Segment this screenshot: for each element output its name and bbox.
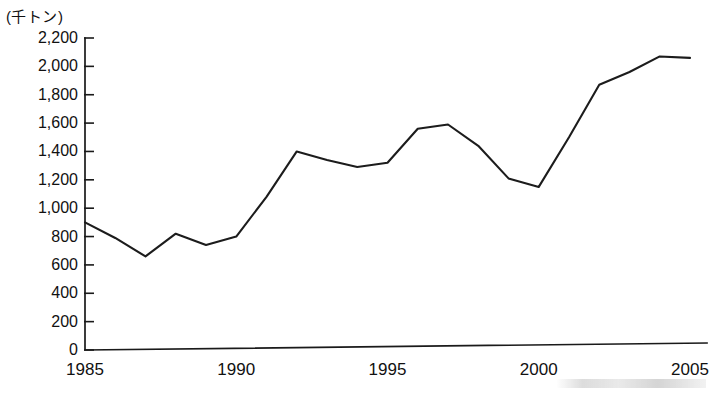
line-chart-figure: (千トン) 2,2002,0001,8001,6001,4001,2001,00… — [0, 0, 709, 393]
x-tick-label: 1990 — [191, 361, 281, 379]
x-tick-label: 1985 — [40, 361, 130, 379]
x-axis-tick-label-group: 19851990199520002005 — [0, 0, 709, 393]
x-tick-label: 2000 — [494, 361, 584, 379]
x-tick-label: 2005 — [645, 361, 709, 379]
scan-artifact-smudge — [556, 379, 706, 388]
x-tick-label: 1995 — [343, 361, 433, 379]
